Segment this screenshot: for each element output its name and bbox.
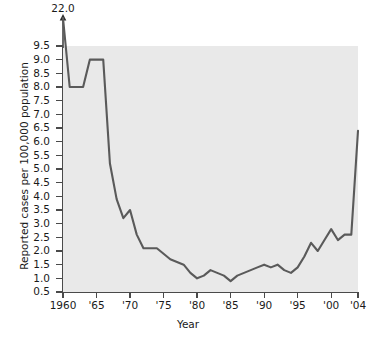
x-axis-title: Year (0, 318, 376, 330)
chart-container: 22.0 9.59.08.58.07.57.06.56.05.55.04.54.… (0, 0, 376, 342)
data-series-line (0, 0, 376, 342)
y-axis-title: Reported cases per 100,000 population (18, 56, 30, 276)
